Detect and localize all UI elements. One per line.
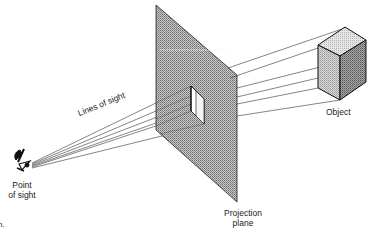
eye-icon bbox=[15, 149, 30, 171]
projection-plane-line1: Projection bbox=[218, 208, 268, 218]
point-of-sight-line1: Point bbox=[2, 180, 42, 190]
point-of-sight-label: Point of sight bbox=[2, 180, 42, 200]
projection-diagram bbox=[0, 0, 369, 229]
object-label: Object bbox=[326, 107, 351, 117]
point-of-sight-line2: of sight bbox=[2, 190, 42, 200]
projection-plane-label: Projection plane bbox=[218, 208, 268, 228]
cube-object bbox=[318, 27, 366, 100]
projection-plane-line2: plane bbox=[218, 218, 268, 228]
cropped-text-fragment: n. bbox=[0, 220, 5, 229]
